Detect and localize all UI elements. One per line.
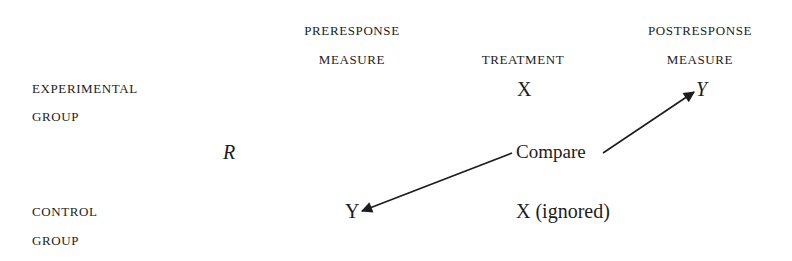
comparison-arrows <box>0 0 792 261</box>
arrow-to-experimental-post-measure <box>603 92 694 153</box>
arrow-to-control-pre-measure <box>362 153 512 211</box>
